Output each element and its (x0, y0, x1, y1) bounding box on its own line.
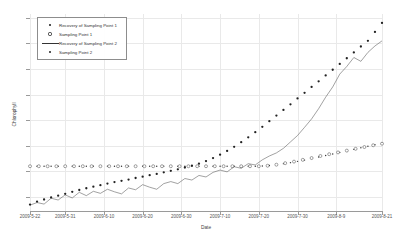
y-axis-title: Chlorophyll (12, 70, 17, 160)
series-line (30, 41, 382, 205)
y-tick-mark (26, 18, 30, 19)
legend-label: Recovery of Sampling Point 1 (59, 21, 117, 30)
chart-legend: Recovery of Sampling Point 1Sampling Poi… (37, 17, 127, 60)
x-tick-label: 2009-8-21 (359, 214, 401, 219)
y-tick-mark (26, 43, 30, 44)
x-axis-title: Date (30, 225, 382, 230)
y-tick-mark (26, 69, 30, 70)
legend-glyph (48, 32, 51, 35)
series-open-circle (29, 142, 384, 168)
legend-marker-filled-dot-icon (41, 48, 59, 57)
y-tick-mark (26, 197, 30, 198)
legend-item: Sampling Point 2 (41, 48, 123, 57)
x-tick-label: 2009-8-9 (313, 214, 359, 219)
legend-marker-small-dot-icon (41, 21, 59, 30)
y-tick-mark (26, 95, 30, 96)
chlorophyll-chart: 56789101112 2009-5-222009-5-312009-6-102… (0, 0, 401, 241)
y-tick-mark (26, 146, 30, 147)
legend-glyph (49, 24, 50, 25)
legend-glyph (49, 51, 51, 53)
legend-item: Recovery of Sampling Point 1 (41, 21, 123, 30)
legend-glyph (42, 43, 59, 44)
legend-marker-line-icon (41, 39, 59, 48)
y-tick-mark (26, 171, 30, 172)
legend-item: Recovery of Sampling Point 2 (41, 39, 123, 48)
legend-marker-open-circle-icon (41, 30, 59, 39)
gridline-vertical (382, 14, 383, 211)
legend-label: Sampling Point 1 (59, 30, 92, 39)
legend-item: Sampling Point 1 (41, 30, 123, 39)
x-axis-line (30, 211, 382, 212)
legend-label: Recovery of Sampling Point 2 (59, 39, 117, 48)
legend-label: Sampling Point 2 (59, 48, 92, 57)
y-tick-mark (26, 120, 30, 121)
